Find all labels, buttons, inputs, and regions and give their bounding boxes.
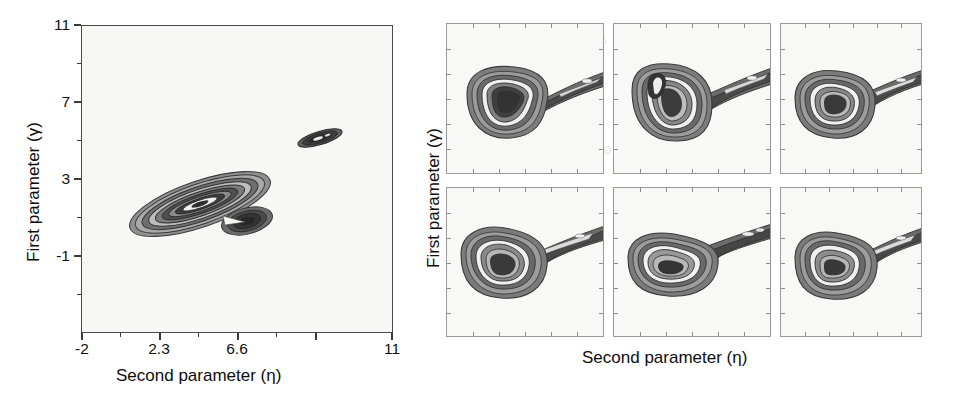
y-tick-label-1: 7 bbox=[30, 93, 70, 111]
grid-panel-4 bbox=[446, 187, 604, 337]
x-tick-major-11 bbox=[391, 333, 393, 340]
y-tick-minor-9 bbox=[77, 63, 81, 64]
y-tick-label-0: 11 bbox=[30, 16, 70, 34]
x-tick-minor-d bbox=[315, 333, 317, 340]
main-plot-x-axis-title: Second parameter (η) bbox=[116, 366, 281, 386]
grid-contour-plots bbox=[446, 23, 922, 337]
main-contour-plot-area bbox=[81, 25, 393, 333]
panel-2-contours bbox=[614, 24, 771, 174]
y-tick-major-3 bbox=[74, 178, 81, 180]
grid-panel-5 bbox=[613, 187, 771, 337]
grid-y-axis-title: First parameter (γ) bbox=[424, 128, 444, 268]
x-tick-label-2: 6.6 bbox=[216, 340, 258, 358]
grid-panel-6 bbox=[780, 187, 922, 337]
y-tick-major-7 bbox=[74, 101, 81, 103]
panel-4-contours bbox=[447, 188, 604, 337]
grid-x-axis-title: Second parameter (η) bbox=[582, 348, 747, 368]
main-contour-blobs bbox=[82, 26, 392, 332]
x-tick-major-6p6 bbox=[237, 333, 239, 340]
x-tick-minor-a bbox=[120, 333, 121, 337]
grid-panel-2 bbox=[613, 23, 771, 174]
panel-3-contours bbox=[781, 24, 922, 174]
x-tick-major-2p3 bbox=[159, 333, 161, 340]
y-tick-minor-neg3 bbox=[77, 294, 81, 295]
x-tick-label-0: -2 bbox=[61, 340, 103, 358]
figure-contour-plots: of the posterior distributionare a diffe… bbox=[0, 0, 956, 402]
x-tick-label-1: 2.3 bbox=[138, 340, 180, 358]
x-tick-minor-c bbox=[276, 333, 277, 337]
y-tick-minor-5 bbox=[77, 140, 81, 141]
x-tick-label-3: 11 bbox=[371, 340, 413, 358]
y-tick-minor-1 bbox=[77, 217, 81, 218]
y-tick-major-11 bbox=[74, 24, 81, 26]
grid-panel-1 bbox=[446, 23, 604, 174]
panel-5-contours bbox=[614, 188, 771, 337]
x-tick-minor-b bbox=[198, 333, 199, 337]
panel-6-contours bbox=[781, 188, 922, 337]
main-plot-y-axis-title: First parameter (γ) bbox=[24, 122, 44, 262]
y-tick-major-neg1 bbox=[74, 255, 81, 257]
x-tick-major-neg2 bbox=[81, 333, 83, 340]
panel-1-contours bbox=[447, 24, 604, 174]
grid-panel-3 bbox=[780, 23, 922, 174]
